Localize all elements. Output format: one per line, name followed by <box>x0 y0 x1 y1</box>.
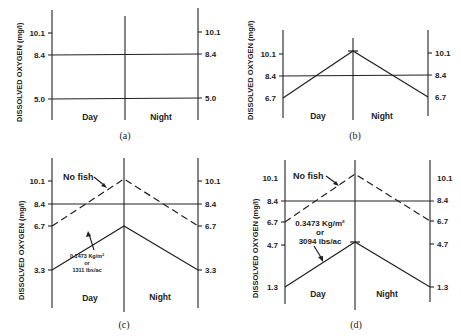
line-5.0 <box>48 98 202 99</box>
tick-left: 6.7 <box>265 94 277 103</box>
density-kg-label: 0.3473 Kg/m² <box>295 219 345 228</box>
or-label: or <box>84 260 90 266</box>
panel-d: DISSOLVED OXYGEN (mg/l) 10.1 8.4 6.7 4.7… <box>251 160 453 331</box>
panel-label: (b) <box>349 130 361 142</box>
panel-label: (a) <box>119 130 130 142</box>
no-fish-label: No fish <box>63 172 94 182</box>
day-label: Day <box>82 293 98 303</box>
tick-right: 8.4 <box>205 200 217 209</box>
y-axis-label: DISSOLVED OXYGEN (mg/l) <box>251 198 260 298</box>
tick-left: 10.1 <box>29 29 45 38</box>
tick-left: 8.4 <box>34 51 46 60</box>
panel-label: (d) <box>350 319 362 331</box>
panel-c: DISSOLVED OXYGEN (mg/l) 10.1 8.4 6.7 3.3… <box>17 158 221 331</box>
tick-right: 3.3 <box>205 266 217 275</box>
tick-left: 8.4 <box>267 197 279 206</box>
tick-right: 4.7 <box>437 240 449 249</box>
fish-density-line <box>285 242 430 287</box>
tick-left: 6.7 <box>34 222 46 231</box>
day-label: Day <box>310 111 326 121</box>
tick-left: 8.4 <box>265 72 277 81</box>
fish-density-line <box>52 226 198 270</box>
tick-left: 6.7 <box>267 218 279 227</box>
panel-b: DISSOLVED OXYGEN (mg/l) 10.1 8.4 6.7 10.… <box>246 20 451 142</box>
y-axis-label: DISSOLVED OXYGEN (mg/l) <box>15 22 24 122</box>
do-cycle-line <box>283 51 428 98</box>
tick-left: 1.3 <box>267 283 279 292</box>
tick-left: 10.1 <box>262 174 278 183</box>
tick-right: 10.1 <box>205 28 221 37</box>
line-8.4 <box>279 75 432 76</box>
line-8.4 <box>48 54 202 55</box>
tick-right: 6.7 <box>437 217 449 226</box>
tick-right: 1.3 <box>437 283 449 292</box>
night-label: Night <box>150 112 172 122</box>
no-fish-label: No fish <box>293 171 324 181</box>
tick-left: 4.7 <box>267 241 279 250</box>
density-lbs-label: 1311 lbs/ac <box>72 267 101 273</box>
dissolved-oxygen-figure: DISSOLVED OXYGEN (mg/l) 10.1 8.4 5.0 10.… <box>0 0 461 336</box>
day-label: Day <box>82 112 98 122</box>
tick-right: 8.4 <box>205 50 217 59</box>
tick-left: 10.1 <box>260 50 276 59</box>
tick-right: 6.7 <box>435 93 447 102</box>
no-fish-dashed-line <box>285 174 430 222</box>
tick-left: 3.3 <box>34 266 46 275</box>
tick-right: 6.7 <box>205 222 217 231</box>
tick-left: 10.1 <box>29 177 45 186</box>
y-axis-label: DISSOLVED OXYGEN (mg/l) <box>246 20 255 120</box>
or-label: or <box>316 228 324 237</box>
night-label: Night <box>371 111 393 121</box>
panel-label: (c) <box>118 319 129 331</box>
panel-a: DISSOLVED OXYGEN (mg/l) 10.1 8.4 5.0 10.… <box>15 8 221 142</box>
day-label: Day <box>310 289 326 299</box>
density-kg-label: 0.1473 Kg/m² <box>70 253 104 259</box>
tick-right: 8.4 <box>437 196 449 205</box>
night-label: Night <box>149 292 171 302</box>
tick-right: 10.1 <box>435 49 451 58</box>
tick-left: 8.4 <box>34 200 46 209</box>
y-axis-label: DISSOLVED OXYGEN (mg/l) <box>17 200 26 300</box>
tick-right: 10.1 <box>205 177 221 186</box>
tick-right: 5.0 <box>205 94 217 103</box>
night-label: Night <box>376 289 398 299</box>
tick-right: 10.1 <box>437 174 453 183</box>
tick-right: 8.4 <box>435 71 447 80</box>
tick-left: 5.0 <box>34 95 46 104</box>
density-lbs-label: 3094 lbs/ac <box>299 237 342 246</box>
no-fish-dashed-line <box>52 179 198 226</box>
